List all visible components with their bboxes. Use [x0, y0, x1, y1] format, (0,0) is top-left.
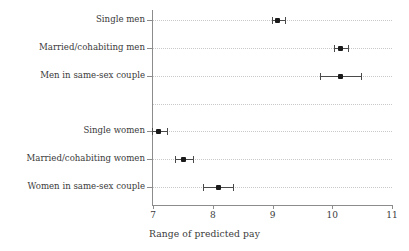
plot-area	[153, 10, 392, 205]
error-bar-cap-high-4	[167, 128, 168, 135]
error-bar-cap-high-6	[233, 184, 234, 191]
error-bar-cap-low-6	[203, 184, 204, 191]
data-point-4	[156, 129, 161, 134]
gridline-row-3	[153, 104, 392, 105]
y-axis-label-men-in-same-sex-couple: Men in same-sex couple	[40, 71, 145, 80]
error-bar-cap-low-0	[272, 17, 273, 24]
error-bar-cap-high-0	[285, 17, 286, 24]
data-point-6	[216, 185, 221, 190]
y-tick-6	[147, 187, 152, 188]
y-axis-label-married-cohabiting-men: Married/cohabiting men	[39, 43, 145, 52]
y-axis-label-single-men: Single men	[96, 15, 145, 24]
x-tick-label-11: 11	[380, 210, 404, 221]
data-point-0	[275, 18, 280, 23]
x-tick-10	[332, 205, 333, 209]
x-tick-9	[273, 205, 274, 209]
gridline-row-6	[153, 187, 392, 188]
data-point-5	[181, 157, 186, 162]
error-bar-cap-high-2	[361, 73, 362, 80]
y-tick-2	[147, 76, 152, 77]
y-axis-label-single-women: Single women	[83, 126, 145, 135]
y-tick-4	[147, 131, 152, 132]
error-bar-cap-high-1	[348, 45, 349, 52]
y-tick-5	[147, 159, 152, 160]
x-tick-11	[392, 205, 393, 209]
x-tick-label-9: 9	[261, 210, 285, 221]
error-bar-cap-low-5	[175, 156, 176, 163]
x-tick-label-8: 8	[201, 210, 225, 221]
y-tick-0	[147, 20, 152, 21]
gridline-row-1	[153, 48, 392, 49]
gridline-row-4	[153, 131, 392, 132]
x-tick-label-10: 10	[320, 210, 344, 221]
error-bar-cap-high-5	[193, 156, 194, 163]
x-tick-7	[153, 205, 154, 209]
x-tick-label-7: 7	[141, 210, 165, 221]
y-axis-label-women-in-same-sex-couple: Women in same-sex couple	[27, 182, 145, 191]
y-axis-label-married-cohabiting-women: Married/cohabiting women	[26, 154, 145, 163]
error-bar-cap-low-1	[334, 45, 335, 52]
y-tick-1	[147, 48, 152, 49]
error-bar-cap-low-2	[320, 73, 321, 80]
x-axis-title: Range of predicted pay	[0, 228, 409, 239]
x-tick-8	[213, 205, 214, 209]
data-point-2	[338, 74, 343, 79]
predicted-pay-dot-plot: Single menMarried/cohabiting menMen in s…	[0, 0, 409, 251]
data-point-1	[338, 46, 343, 51]
